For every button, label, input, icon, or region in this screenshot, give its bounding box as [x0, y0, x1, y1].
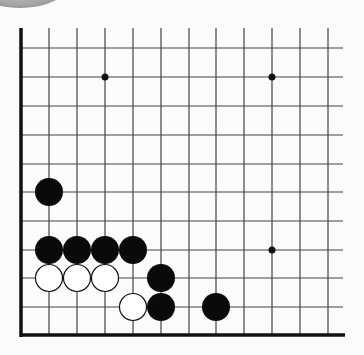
black-stone — [147, 293, 175, 321]
go-board — [0, 0, 364, 355]
star-point-icon — [269, 247, 276, 254]
black-stone — [119, 236, 147, 264]
star-point-icon — [269, 74, 276, 81]
white-stone — [120, 294, 147, 321]
star-point-icon — [102, 74, 109, 81]
black-stone — [147, 264, 175, 292]
black-stone — [63, 236, 91, 264]
black-stone — [202, 293, 230, 321]
white-stone — [36, 265, 63, 292]
white-stone — [64, 265, 91, 292]
white-stone — [92, 265, 119, 292]
black-stone — [35, 178, 63, 206]
black-stone — [91, 236, 119, 264]
black-stone — [35, 236, 63, 264]
